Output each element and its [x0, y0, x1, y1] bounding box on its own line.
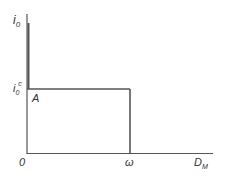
y-tick-critical-label: i0c [13, 80, 22, 96]
diagram-canvas: i0 i0c A 0 ω DM [0, 0, 225, 176]
origin-label: 0 [19, 156, 26, 168]
x-axis-label: DM [194, 156, 208, 170]
point-a-label: A [31, 92, 39, 104]
y-axis-label: i0 [13, 13, 21, 29]
x-tick-omega-label: ω [125, 156, 134, 168]
spike-at-zero [28, 23, 30, 89]
